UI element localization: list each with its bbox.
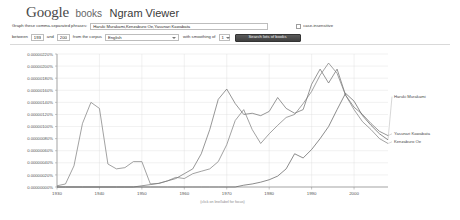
chevron-down-icon (226, 37, 230, 39)
x-axis-label: 1990 (307, 191, 317, 196)
y-axis-label: 0.00000220% (27, 52, 53, 57)
smoothing-select[interactable]: 1 (219, 34, 230, 41)
phrases-label: Graph these comma-separated phrases: (12, 24, 87, 28)
between-label: between (12, 35, 28, 39)
x-axis-label: 1940 (95, 191, 105, 196)
y-axis-label: 0.00000060% (27, 148, 53, 153)
query-form: Graph these comma-separated phrases: cas… (0, 21, 460, 43)
case-insensitive-checkbox[interactable] (296, 24, 301, 29)
corpus-select-value: English (108, 34, 122, 41)
smoothing-select-value: 1 (222, 34, 224, 41)
and-label: and (47, 35, 54, 39)
phrases-row: Graph these comma-separated phrases: cas… (12, 21, 460, 32)
year-start-input[interactable] (31, 34, 44, 41)
page-title: Ngram Viewer (110, 7, 180, 19)
y-axis-label: 0.00000120% (27, 112, 53, 117)
case-insensitive-control[interactable]: case-insensitive (296, 24, 333, 29)
chart-series-line[interactable] (57, 69, 388, 187)
year-end-input[interactable] (57, 34, 70, 41)
x-axis-label: 1960 (179, 191, 189, 196)
chevron-down-icon (172, 37, 176, 39)
google-wordmark: Google (26, 4, 69, 20)
search-button[interactable]: Search lots of books (235, 34, 301, 42)
case-insensitive-label: case-insensitive (303, 24, 333, 28)
ngram-chart[interactable]: 0.00000220%0.00000200%0.00000180%0.00000… (0, 47, 460, 212)
chart-series-line[interactable] (57, 93, 388, 187)
series-label-leader (388, 142, 392, 144)
chart-footnote: (click on line/label for focus) (200, 200, 244, 204)
x-axis-label: 1950 (137, 191, 147, 196)
y-axis-label: 0.00000200% (27, 64, 53, 69)
books-wordmark: books (75, 8, 102, 19)
series-legend-label[interactable]: Haruki Murakami (394, 94, 426, 99)
smoothing-label: with smoothing of (183, 35, 216, 39)
series-legend-label[interactable]: Kenzaburo Oe (394, 139, 422, 144)
x-axis-label: 1930 (52, 191, 62, 196)
y-axis-label: 0.00000180% (27, 76, 53, 81)
corpus-select[interactable]: English (105, 34, 179, 41)
options-row: between and from the corpus English with… (12, 32, 460, 43)
x-axis-label: 1980 (264, 191, 274, 196)
y-axis-label: 0.00000140% (27, 100, 53, 105)
corpus-label: from the corpus (73, 35, 102, 39)
header-divider (10, 44, 450, 45)
phrases-input[interactable] (90, 23, 268, 30)
app-logo-bar: Google books Ngram Viewer (0, 0, 460, 20)
y-axis-label: 0.00000000% (27, 185, 53, 190)
chart-canvas[interactable]: 0.00000220%0.00000200%0.00000180%0.00000… (0, 47, 460, 212)
series-legend-label[interactable]: Yasunari Kawabata (394, 131, 431, 136)
y-axis-label: 0.00000100% (27, 124, 53, 129)
x-axis-label: 1970 (222, 191, 232, 196)
y-axis-label: 0.00000080% (27, 136, 53, 141)
y-axis-label: 0.00000020% (27, 173, 53, 178)
series-label-leader (388, 97, 392, 140)
chart-series-line[interactable] (57, 63, 388, 186)
y-axis-label: 0.00000160% (27, 88, 53, 93)
x-axis-label: 2000 (349, 191, 359, 196)
y-axis-label: 0.00000040% (27, 160, 53, 165)
